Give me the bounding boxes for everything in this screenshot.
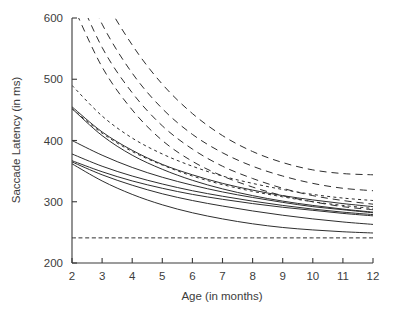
chart-canvas: 23456789101112 200300400500600 Age (in m… bbox=[0, 0, 408, 316]
x-tick-label: 3 bbox=[99, 270, 105, 282]
x-tick-label: 4 bbox=[129, 270, 136, 282]
x-axis-ticks: 23456789101112 bbox=[69, 258, 380, 282]
x-tick-label: 8 bbox=[249, 270, 255, 282]
curve-dashed-1 bbox=[72, 0, 373, 175]
x-tick-label: 7 bbox=[219, 270, 225, 282]
x-tick-label: 11 bbox=[337, 270, 349, 282]
y-tick-label: 500 bbox=[44, 73, 63, 85]
x-tick-label: 2 bbox=[69, 270, 75, 282]
x-axis-title: Age (in months) bbox=[181, 290, 262, 302]
y-tick-label: 200 bbox=[44, 257, 63, 269]
curve-dotted-2 bbox=[72, 109, 373, 209]
y-tick-label: 600 bbox=[44, 12, 63, 24]
axes-layer bbox=[72, 18, 373, 263]
x-tick-label: 12 bbox=[367, 270, 380, 282]
y-tick-label: 300 bbox=[44, 196, 63, 208]
x-tick-label: 10 bbox=[306, 270, 319, 282]
saccade-latency-chart: 23456789101112 200300400500600 Age (in m… bbox=[0, 0, 408, 316]
y-tick-label: 400 bbox=[44, 135, 63, 147]
x-tick-label: 5 bbox=[159, 270, 165, 282]
x-tick-label: 6 bbox=[189, 270, 195, 282]
curve-dashed-3 bbox=[72, 0, 373, 204]
curve-solid-7 bbox=[72, 164, 373, 233]
x-tick-label: 9 bbox=[279, 270, 285, 282]
curve-dashed-4 bbox=[72, 3, 373, 209]
curves-layer bbox=[72, 0, 373, 238]
y-axis-title: Saccade Latency (in ms) bbox=[10, 77, 22, 204]
